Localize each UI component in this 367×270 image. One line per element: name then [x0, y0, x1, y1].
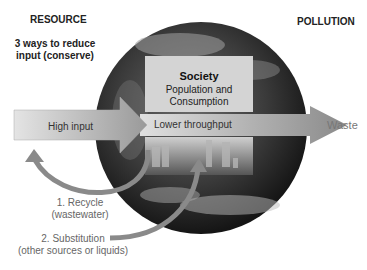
society-box-text: Society Population and Consumption — [145, 70, 253, 108]
subtitle: 3 ways to reduce input (conserve) — [10, 38, 100, 62]
substitution-label: 2. Substitution (other sources or liquid… — [8, 233, 138, 257]
recycle-label: 1. Recycle (wastewater) — [40, 197, 120, 221]
high-input-label: High input — [48, 121, 93, 132]
lower-throughput-label: Lower throughput — [154, 119, 232, 130]
society-title: Society — [145, 70, 253, 82]
waste-label: Waste — [327, 119, 358, 131]
pollution-header: POLLUTION — [297, 16, 355, 27]
resource-header: RESOURCE — [30, 14, 87, 25]
